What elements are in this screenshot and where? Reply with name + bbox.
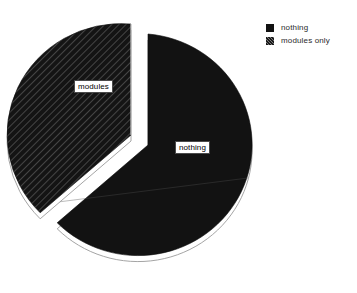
legend-label-modules-only: modules only <box>281 36 330 45</box>
legend-item-nothing[interactable]: nothing <box>266 22 354 33</box>
slice-label-modules: modules <box>74 80 113 93</box>
legend-swatch-nothing-icon <box>266 24 274 32</box>
legend-item-modules-only[interactable]: modules only <box>266 35 354 46</box>
legend-swatch-modules-only-icon <box>266 37 274 45</box>
legend-label-nothing: nothing <box>281 23 308 32</box>
chart-legend: nothing modules only <box>266 22 354 48</box>
slice-label-nothing: nothing <box>175 141 210 154</box>
pie-chart: modules nothing nothing modules only <box>0 0 357 293</box>
